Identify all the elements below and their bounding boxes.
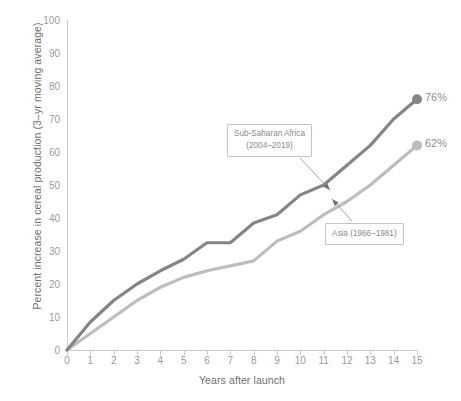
annotation-ssa-line2: (2004–2019) [234, 140, 305, 152]
annotation-asia-line1: Asia (1966–1981) [332, 228, 397, 240]
cereal-production-line-chart: Percent increase in cereal production (3… [0, 0, 461, 401]
annotation-asia: Asia (1966–1981) [325, 223, 404, 245]
annotation-ssa-line1: Sub-Saharan Africa [234, 128, 305, 140]
plot-area [0, 0, 461, 401]
endpoint-dot-sub-saharan-africa [412, 94, 422, 104]
endpoint-dot-asia [412, 140, 422, 150]
annotation-sub-saharan-africa: Sub-Saharan Africa (2004–2019) [227, 124, 312, 157]
end-value-label-sub-saharan-africa: 76% [425, 91, 447, 103]
end-value-label-asia: 62% [425, 137, 447, 149]
series-line-asia [67, 145, 417, 350]
x-axis-title: Years after launch [67, 374, 417, 386]
